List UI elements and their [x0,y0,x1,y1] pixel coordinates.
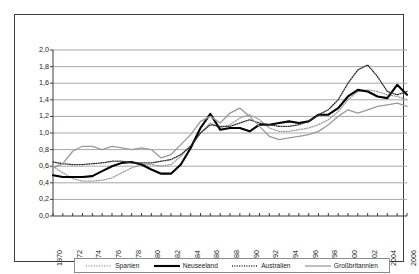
y-axis-tick-label: 1,2 [25,112,49,120]
y-axis-tick-label: 1,6 [25,79,49,87]
legend-item-großbritannien[interactable]: Großbritannien [305,262,378,269]
chart-legend: SpanienNeuseelandAustralienGroßbritannie… [74,258,390,273]
legend-item-australien[interactable]: Australien [232,262,290,269]
legend-item-spanien[interactable]: Spanien [86,262,139,269]
plot-svg [53,50,407,216]
legend-label: Neuseeland [183,262,218,269]
y-axis-tick-label: 0,6 [25,162,49,170]
y-axis-tick-labels: 0,00,20,40,60,81,01,21,41,61,82,0 [23,50,49,216]
y-axis-tick-label: 0,0 [25,212,49,220]
legend-label: Spanien [115,262,139,269]
series-line-spanien [53,90,407,181]
series-line-neuseeland [53,85,407,177]
legend-key-spanien [86,263,112,269]
y-axis-tick-label: 0,4 [25,179,49,187]
x-axis-tick-label: 2006 [410,250,418,266]
legend-key-australien [232,263,258,269]
y-axis-tick-label: 1,8 [25,63,49,71]
y-axis-tick-label: 1,4 [25,96,49,104]
x-axis-tick-labels: 1970197219741976197819801982198419861988… [53,218,407,252]
chart-figure: 0,00,20,40,60,81,01,21,41,61,82,0 197019… [0,0,419,274]
y-axis-tick-label: 0,2 [25,195,49,203]
plot-area [53,50,407,216]
legend-key-großbritannien [305,263,331,269]
legend-label: Australien [261,262,290,269]
legend-label: Großbritannien [334,262,378,269]
chart-frame: 0,00,20,40,60,81,01,21,41,61,82,0 197019… [14,14,404,262]
legend-key-neuseeland [154,263,180,269]
y-axis-tick-label: 2,0 [25,46,49,54]
y-axis-tick-label: 1,0 [25,129,49,137]
x-axis-tick-label: 2004 [390,250,398,266]
series-line-großbritannien [53,103,407,168]
x-axis-tick-label: 1970 [56,250,64,266]
y-axis-tick-label: 0,8 [25,146,49,154]
legend-item-neuseeland[interactable]: Neuseeland [154,262,218,269]
